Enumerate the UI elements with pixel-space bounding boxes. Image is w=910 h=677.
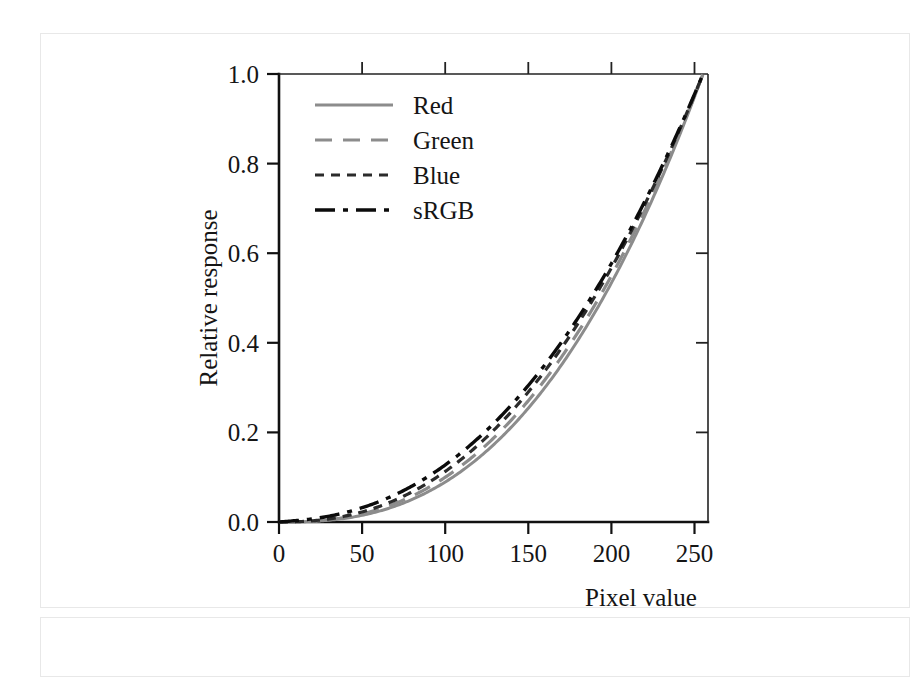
next-section-card <box>40 617 910 677</box>
chart-canvas: 0.0 0.2 0.4 0.6 0.8 1.0 0 50 100 150 200… <box>41 34 910 609</box>
legend-label-srgb: sRGB <box>413 197 474 224</box>
y-tick-label-0: 0.0 <box>228 509 259 536</box>
y-tick-marks <box>267 74 279 522</box>
figure-card: 0.0 0.2 0.4 0.6 0.8 1.0 0 50 100 150 200… <box>40 33 910 608</box>
x-axis-title: Pixel value <box>585 584 697 609</box>
x-tick-label-3: 150 <box>510 540 548 567</box>
legend-entry-blue: Blue <box>315 162 460 189</box>
y-tick-label-5: 1.0 <box>228 61 259 88</box>
curve-blue <box>279 74 703 522</box>
y-tick-label-1: 0.2 <box>228 419 259 446</box>
y-tick-marks-right <box>696 164 708 433</box>
y-axis-title: Relative response <box>195 209 222 386</box>
chart-legend: Red Green Blue sRGB <box>315 92 475 224</box>
curve-srgb <box>279 74 703 522</box>
curves-group <box>279 74 703 522</box>
legend-label-red: Red <box>413 92 454 119</box>
x-tick-label-2: 100 <box>426 540 464 567</box>
legend-label-blue: Blue <box>413 162 460 189</box>
x-tick-labels: 0 50 100 150 200 250 <box>273 540 714 567</box>
x-tick-label-4: 200 <box>593 540 631 567</box>
curve-red <box>279 74 703 522</box>
x-tick-label-5: 250 <box>676 540 714 567</box>
y-tick-label-4: 0.8 <box>228 151 259 178</box>
legend-label-green: Green <box>413 127 475 154</box>
x-tick-label-1: 50 <box>350 540 375 567</box>
x-tick-label-0: 0 <box>273 540 286 567</box>
x-tick-marks <box>279 522 695 534</box>
legend-entry-srgb: sRGB <box>315 197 474 224</box>
y-tick-label-3: 0.6 <box>228 240 259 267</box>
legend-entry-red: Red <box>315 92 454 119</box>
curve-green <box>279 74 703 522</box>
y-tick-labels: 0.0 0.2 0.4 0.6 0.8 1.0 <box>228 61 260 536</box>
y-tick-label-2: 0.4 <box>228 330 260 357</box>
gamma-response-figure: 0.0 0.2 0.4 0.6 0.8 1.0 0 50 100 150 200… <box>41 34 910 609</box>
x-tick-marks-top <box>362 62 694 74</box>
legend-entry-green: Green <box>315 127 475 154</box>
